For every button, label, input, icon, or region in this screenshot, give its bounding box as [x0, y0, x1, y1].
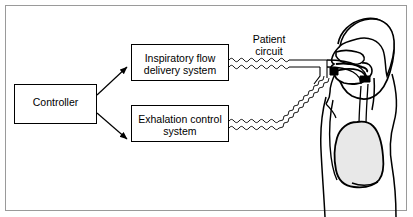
arrow-controller-to-exhalation: [97, 113, 127, 139]
inspiratory-limb-smooth-section: [289, 60, 327, 67]
mouth-opening: [330, 68, 338, 75]
expiratory-limb-tubing: [229, 76, 329, 130]
lung: [335, 122, 384, 188]
diagram-vector-layer: [0, 0, 413, 217]
torso-outline: [321, 97, 326, 217]
inspiratory-flow-delivery-system-box[interactable]: [132, 45, 229, 81]
arrow-controller-to-inspiratory: [97, 67, 127, 95]
controller-box[interactable]: [15, 85, 97, 124]
endotracheal-tube-cuff: [360, 76, 370, 82]
exhalation-control-system-box[interactable]: [132, 106, 229, 142]
inspiratory-limb-tubing: [229, 58, 289, 68]
torso-back-outline: [390, 74, 396, 217]
diagram-canvas: Controller Inspiratory flow delivery sys…: [0, 0, 413, 217]
